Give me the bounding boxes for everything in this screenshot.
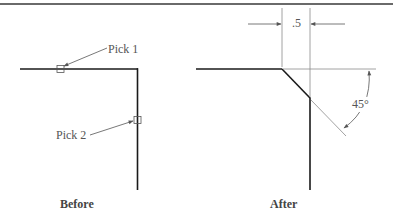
after-corner [196,69,310,190]
pick1-leader-arrow [64,48,107,66]
pick2-label: Pick 2 [56,128,86,143]
chamfer-diagram [0,0,393,219]
after-caption: After [270,197,297,212]
pick2-leader-arrow [90,121,133,135]
distance-label: .5 [292,16,301,31]
before-caption: Before [60,197,94,212]
angle-label: 45° [352,97,369,112]
pick1-label: Pick 1 [108,42,138,57]
